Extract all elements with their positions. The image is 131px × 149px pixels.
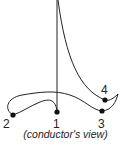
- beat-dot-4: [102, 97, 107, 102]
- diagram-caption: (conductor's view): [0, 128, 131, 140]
- beat-dot-2: [10, 112, 15, 117]
- beat-dot-3: [99, 108, 104, 113]
- conducting-pattern-diagram: [0, 0, 131, 149]
- beat-dot-1: [54, 109, 59, 114]
- beat-label-4: 4: [101, 84, 108, 96]
